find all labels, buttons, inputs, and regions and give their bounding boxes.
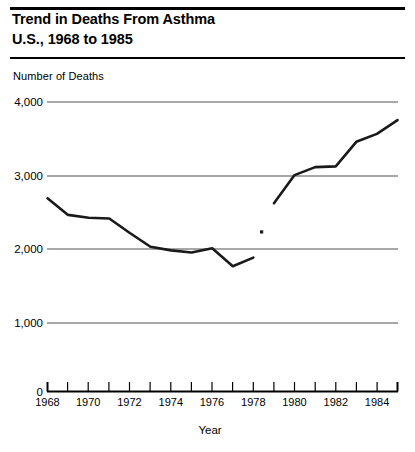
x-tick-label-1982: 1982 (324, 396, 348, 408)
x-tick-label-1976: 1976 (200, 396, 224, 408)
x-tick-label-1978: 1978 (241, 396, 265, 408)
y-tick-label-1000: 1,000 (14, 317, 43, 329)
x-axis-title: Year (198, 424, 221, 436)
y-axis-tick-labels: 4,000 3,000 2,000 1,000 0 (14, 96, 43, 398)
x-tick-label-1968: 1968 (35, 396, 59, 408)
x-tick-label-1974: 1974 (159, 396, 183, 408)
x-tick-label-1984: 1984 (365, 396, 389, 408)
y-tick-label-2000: 2,000 (14, 243, 43, 255)
asthma-deaths-line-chart: 4,000 3,000 2,000 1,000 0 (0, 0, 415, 452)
x-tick-label-1970: 1970 (76, 396, 100, 408)
figure-page: Trend in Deaths From Asthma U.S., 1968 t… (0, 0, 415, 452)
x-axis-ticks (68, 382, 378, 391)
y-tick-label-3000: 3,000 (14, 170, 43, 182)
x-axis: 1968 1970 1972 1974 1976 1978 1980 1982 … (35, 382, 398, 408)
x-axis-tick-labels: 1968 1970 1972 1974 1976 1978 1980 1982 … (35, 396, 389, 408)
isolated-point-marker (260, 230, 263, 233)
series-line-1979-1985 (274, 120, 398, 203)
y-tick-label-4000: 4,000 (14, 96, 43, 108)
chart-svg: 4,000 3,000 2,000 1,000 0 (0, 0, 415, 452)
data-series-group (48, 120, 398, 266)
gridlines (47, 102, 398, 323)
series-line-1968-1978 (48, 198, 254, 266)
x-tick-label-1980: 1980 (282, 396, 306, 408)
x-tick-label-1972: 1972 (117, 396, 141, 408)
